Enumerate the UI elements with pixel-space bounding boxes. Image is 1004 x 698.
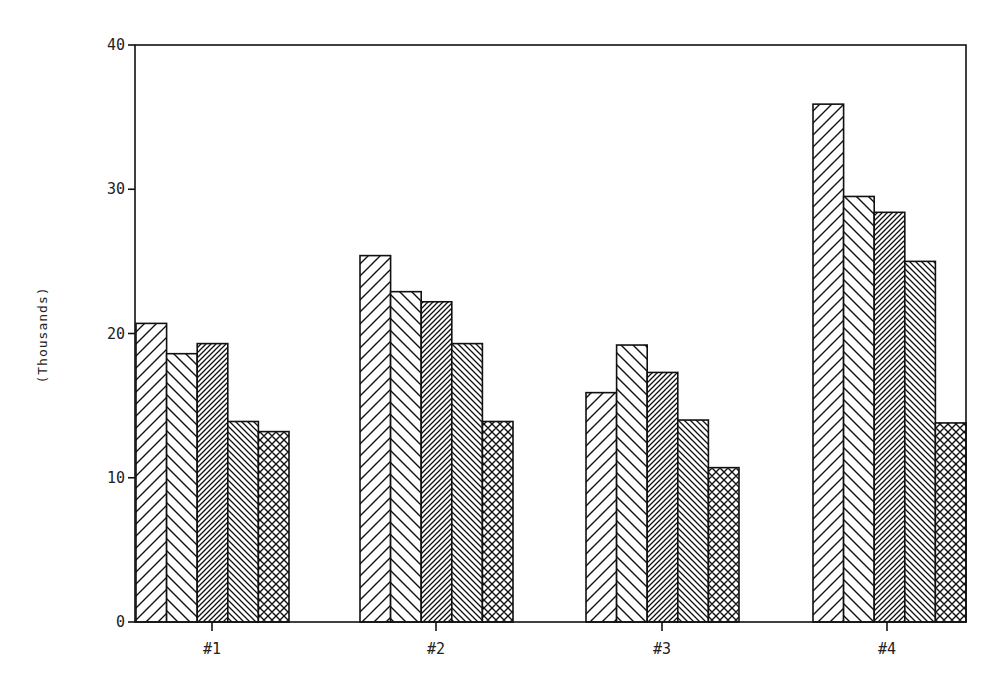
bar-groups [136,104,966,622]
y-tick-label: 40 [107,36,125,54]
bar-group-3 [586,345,739,622]
y-tick-label: 10 [107,469,125,487]
bar-1-series-5 [258,432,289,622]
bar-1-series-4 [228,421,259,622]
bar-4-series-5 [935,423,966,622]
bar-1-series-3 [197,344,228,622]
x-tick-label: #3 [653,640,671,658]
y-tick-label: 0 [116,613,125,631]
bar-chart: 010203040 #1#2#3#4 (Thousands) [0,0,1004,698]
bar-2-series-5 [482,421,513,622]
x-tick-label: #2 [427,640,445,658]
y-axis-title: (Thousands) [35,286,50,383]
x-tick-label: #4 [878,640,896,658]
bar-4-series-2 [844,196,875,622]
bar-2-series-1 [360,256,391,622]
bar-3-series-4 [678,420,709,622]
bar-2-series-3 [421,302,452,622]
bar-2-series-4 [452,344,483,622]
bar-2-series-2 [391,292,422,622]
x-tick-label: #1 [203,640,221,658]
bar-3-series-5 [708,468,739,622]
bar-group-2 [360,256,513,622]
y-axis: 010203040 [107,36,135,631]
bar-4-series-1 [813,104,844,622]
bar-group-1 [136,323,289,622]
bar-1-series-2 [167,354,198,622]
bar-group-4 [813,104,966,622]
bar-3-series-2 [617,345,648,622]
bar-3-series-1 [586,393,617,622]
y-tick-label: 20 [107,325,125,343]
bar-1-series-1 [136,323,167,622]
y-tick-label: 30 [107,180,125,198]
bar-4-series-3 [874,212,905,622]
bar-3-series-3 [647,372,678,622]
bar-4-series-4 [905,261,936,622]
x-axis: #1#2#3#4 [203,622,896,658]
